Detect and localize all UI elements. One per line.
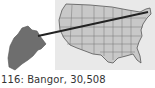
us-map bbox=[59, 4, 151, 63]
maine-state-shape bbox=[8, 26, 46, 70]
city-caption: 116: Bangor, 30,508 bbox=[1, 74, 106, 85]
